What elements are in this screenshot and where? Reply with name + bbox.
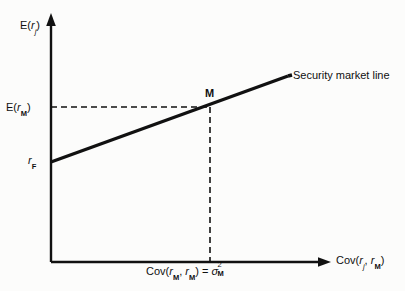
security-market-line <box>51 76 288 162</box>
market-variance-sigma-term: σ2M <box>211 266 218 277</box>
risk-free-subscript: F <box>32 162 37 171</box>
market-return-lead: E( <box>6 101 17 113</box>
market-variance-equals: ) = <box>195 265 211 277</box>
y-axis <box>46 13 56 262</box>
y-axis-title: E(rj) <box>20 20 40 31</box>
x-axis-title-tail: ) <box>381 254 385 266</box>
y-axis-title-lead: E( <box>20 19 31 31</box>
y-axis-title-tail: ) <box>36 19 40 31</box>
y-axis-tick-label-market-return: E(rM) <box>6 102 31 113</box>
x-axis-title: Cov(rj, rM) <box>336 255 384 266</box>
x-axis-tick-label-market-variance: Cov(rM, rM) = σ2M <box>146 266 218 277</box>
x-axis-arrowhead <box>318 257 331 267</box>
figure-canvas <box>0 0 405 291</box>
market-variance-subscript2: M <box>189 273 195 282</box>
sigma-exponent: 2 <box>217 261 221 269</box>
security-market-line-figure: E(rj) E(rM) rF Cov(rj, rM) Cov(rM, rM) =… <box>0 0 405 291</box>
y-axis-tick-label-risk-free-rate: rF <box>28 155 36 166</box>
sigma-subscript: M <box>217 270 223 278</box>
x-axis-title-subscript2: M <box>374 262 380 271</box>
market-return-tail: ) <box>27 101 31 113</box>
y-axis-arrowhead <box>46 13 56 26</box>
x-axis-title-lead: Cov( <box>336 254 359 266</box>
security-market-line-label: Security market line <box>293 70 390 81</box>
market-portfolio-point-label: M <box>205 88 214 99</box>
x-axis-title-subscript1: j <box>363 262 365 271</box>
market-variance-subscript1: M <box>173 273 179 282</box>
market-variance-lead: Cov( <box>146 265 169 277</box>
market-return-subscript: M <box>21 109 27 118</box>
security-market-line-leader <box>288 75 292 76</box>
